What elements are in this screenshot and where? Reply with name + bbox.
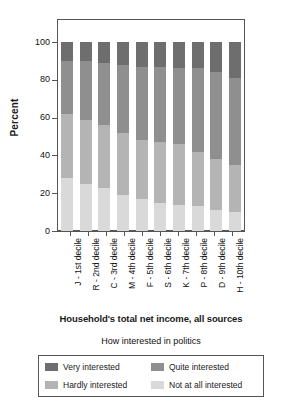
x-axis-category-label: K - 7th decile bbox=[182, 238, 191, 288]
bar-segment bbox=[136, 67, 148, 141]
bar-column bbox=[80, 42, 92, 231]
bar-segment bbox=[192, 152, 204, 207]
bar-column bbox=[192, 42, 204, 231]
legend-box: Very interestedQuite interestedHardly in… bbox=[38, 355, 264, 397]
bar-column bbox=[136, 42, 148, 231]
y-axis-tick bbox=[52, 42, 57, 43]
legend-title: How interested in politics bbox=[0, 336, 302, 346]
legend-item: Quite interested bbox=[151, 363, 257, 372]
y-axis-tick bbox=[52, 155, 57, 156]
legend-item: Very interested bbox=[45, 363, 151, 372]
bar-segment bbox=[210, 210, 222, 231]
bar-segment bbox=[136, 42, 148, 67]
bar-segment bbox=[192, 206, 204, 231]
bar-segment bbox=[229, 165, 241, 212]
bar-segment bbox=[173, 68, 185, 144]
y-axis-tick bbox=[52, 193, 57, 194]
legend-item: Not at all interested bbox=[151, 381, 257, 390]
x-axis-tick bbox=[70, 232, 71, 236]
bar-segment bbox=[61, 61, 73, 114]
bar-segment bbox=[117, 133, 129, 195]
legend-item-label: Quite interested bbox=[169, 363, 229, 372]
bar-segment bbox=[98, 188, 110, 231]
bar-column bbox=[154, 42, 166, 231]
bar-segment bbox=[80, 120, 92, 184]
bar-segment bbox=[154, 203, 166, 231]
y-axis-tick bbox=[52, 80, 57, 81]
bar-column bbox=[117, 42, 129, 231]
y-axis-tick bbox=[52, 231, 57, 232]
y-axis-tick-label: 40 bbox=[40, 151, 50, 160]
bar-column bbox=[210, 42, 222, 231]
x-axis-category-label: M - 4th decile bbox=[128, 238, 137, 289]
x-axis-category-label: S - 6th decile bbox=[164, 238, 173, 288]
bar-segment bbox=[173, 144, 185, 204]
x-axis-tick bbox=[106, 232, 107, 236]
bar-segment bbox=[80, 61, 92, 120]
x-axis-category-label: C - 3rd decile bbox=[110, 238, 119, 289]
x-axis-tick bbox=[160, 232, 161, 236]
legend-swatch bbox=[45, 363, 58, 371]
legend-swatch bbox=[45, 381, 58, 389]
x-axis-category-label: D - 9th decile bbox=[218, 238, 227, 288]
y-axis-tick bbox=[52, 118, 57, 119]
bar-segment bbox=[98, 42, 110, 63]
bar-segment bbox=[154, 142, 166, 202]
x-axis-tick bbox=[214, 232, 215, 236]
bar-column bbox=[98, 42, 110, 231]
bar-segment bbox=[80, 184, 92, 231]
bar-segment bbox=[210, 72, 222, 159]
legend-swatch bbox=[151, 363, 164, 371]
bar-segment bbox=[154, 42, 166, 67]
x-axis-title: Household's total net income, all source… bbox=[0, 313, 302, 324]
bar-segment bbox=[192, 42, 204, 68]
y-axis-tick-label: 100 bbox=[35, 38, 50, 47]
bar-segment bbox=[80, 42, 92, 61]
x-axis-category-label: F - 5th decile bbox=[146, 238, 155, 287]
bar-segment bbox=[210, 42, 222, 72]
x-axis-category-label: H - 10th decile bbox=[236, 238, 245, 293]
y-axis-tick-label: 20 bbox=[40, 189, 50, 198]
bar-segment bbox=[229, 78, 241, 165]
y-axis-tick-label: 60 bbox=[40, 113, 50, 122]
chart-root: Percent 100806040200 J - 1st decileR - 2… bbox=[0, 0, 302, 410]
bar-segment bbox=[61, 178, 73, 231]
legend-item-label: Hardly interested bbox=[63, 381, 127, 390]
bar-segment bbox=[136, 199, 148, 231]
bar-segment bbox=[173, 42, 185, 68]
x-axis-tick bbox=[232, 232, 233, 236]
legend-swatch bbox=[151, 381, 164, 389]
bar-segment bbox=[229, 212, 241, 231]
bar-segment bbox=[98, 63, 110, 125]
bar-segment bbox=[173, 205, 185, 231]
bars-container bbox=[58, 42, 244, 231]
bar-segment bbox=[192, 68, 204, 151]
y-axis-labels: 100806040200 bbox=[0, 0, 50, 410]
bar-segment bbox=[136, 140, 148, 199]
bar-segment bbox=[61, 114, 73, 178]
y-axis-tick-label: 0 bbox=[45, 227, 50, 236]
bar-segment bbox=[117, 65, 129, 133]
bar-segment bbox=[229, 42, 241, 78]
bar-segment bbox=[117, 195, 129, 231]
bar-column bbox=[61, 42, 73, 231]
y-axis-tick-label: 80 bbox=[40, 75, 50, 84]
bar-column bbox=[229, 42, 241, 231]
x-axis-tick bbox=[196, 232, 197, 236]
x-axis-tick bbox=[142, 232, 143, 236]
bar-column bbox=[173, 42, 185, 231]
x-axis-tick bbox=[88, 232, 89, 236]
bar-segment bbox=[210, 159, 222, 210]
x-axis-tick bbox=[178, 232, 179, 236]
bar-segment bbox=[98, 125, 110, 187]
bar-segment bbox=[61, 42, 73, 61]
x-axis-category-label: R - 2nd decile bbox=[92, 238, 101, 290]
bar-segment bbox=[154, 67, 166, 143]
legend-item-label: Not at all interested bbox=[169, 381, 242, 390]
bar-segment bbox=[117, 42, 129, 65]
legend-item: Hardly interested bbox=[45, 381, 151, 390]
legend-item-label: Very interested bbox=[63, 363, 120, 372]
x-axis-line bbox=[57, 231, 245, 232]
x-axis-tick bbox=[124, 232, 125, 236]
x-axis-category-label: J - 1st decile bbox=[74, 238, 83, 286]
